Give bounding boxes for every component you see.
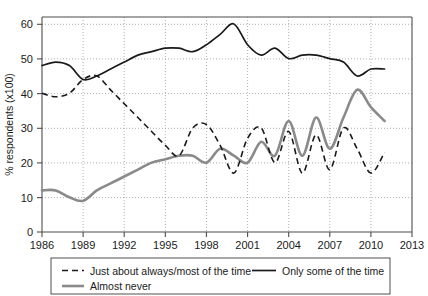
y-tick-label: 0 bbox=[27, 226, 33, 238]
legend-label-just-about-always: Just about always/most of the time bbox=[90, 265, 251, 277]
y-tick-marks bbox=[37, 24, 42, 232]
x-tick-label: 2004 bbox=[276, 239, 300, 251]
y-tick-label: 50 bbox=[21, 53, 33, 65]
x-tick-label: 1995 bbox=[153, 239, 177, 251]
legend: Just about always/most of the time Only … bbox=[51, 258, 390, 294]
x-tick-label: 2010 bbox=[359, 239, 383, 251]
x-tick-label: 2013 bbox=[400, 239, 424, 251]
y-tick-label: 40 bbox=[21, 88, 33, 100]
x-tick-label: 1989 bbox=[71, 239, 95, 251]
x-tick-label: 1986 bbox=[30, 239, 54, 251]
x-tick-label: 2007 bbox=[318, 239, 342, 251]
legend-label-only-some-of-the-time: Only some of the time bbox=[282, 265, 384, 277]
x-tick-label: 1992 bbox=[112, 239, 136, 251]
y-tick-label: 30 bbox=[21, 122, 33, 134]
y-tick-label: 60 bbox=[21, 18, 33, 30]
y-axis-label: % respondents (x100) bbox=[3, 73, 15, 176]
x-tick-marks bbox=[42, 232, 412, 237]
y-tick-label: 10 bbox=[21, 192, 33, 204]
x-tick-label: 1998 bbox=[194, 239, 218, 251]
line-chart: 60 50 40 30 20 10 0 1986 1989 1992 1995 … bbox=[0, 0, 428, 296]
x-tick-label: 2001 bbox=[235, 239, 259, 251]
y-tick-label: 20 bbox=[21, 157, 33, 169]
legend-label-almost-never: Almost never bbox=[90, 280, 152, 292]
chart-figure: 60 50 40 30 20 10 0 1986 1989 1992 1995 … bbox=[0, 0, 428, 296]
x-tick-labels: 1986 1989 1992 1995 1998 2001 2004 2007 … bbox=[30, 239, 424, 251]
plot-background bbox=[42, 17, 412, 232]
y-tick-labels: 60 50 40 30 20 10 0 bbox=[21, 18, 33, 238]
